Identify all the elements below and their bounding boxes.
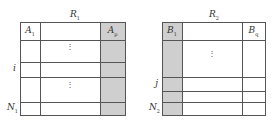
left-ellipsis-top: ⋮ [65, 45, 75, 48]
left-grid-line [125, 22, 126, 115]
left-grid-line [20, 102, 125, 103]
right-grid-line [162, 22, 265, 23]
left-last-column-header: Ap [100, 25, 125, 37]
right-row-label-n2: N2 [140, 102, 160, 114]
left-grid-line [40, 22, 41, 115]
right-grid-line [162, 40, 265, 41]
left-grid-line [20, 115, 126, 116]
right-ellipsis: ⋮ [207, 52, 217, 55]
right-row-label-j: j [142, 78, 158, 88]
left-grid-line [20, 77, 125, 78]
left-grid-line [20, 62, 125, 63]
right-grid-line [162, 91, 265, 92]
right-grid-line [162, 102, 265, 103]
left-grid-line [20, 40, 125, 41]
right-grid-line [182, 22, 183, 115]
right-last-column-header: Bq [242, 25, 265, 37]
left-first-column-header: A1 [20, 25, 40, 37]
right-grid-line [162, 115, 266, 116]
left-table-title: R1 [55, 9, 95, 21]
right-table-title: R2 [194, 9, 234, 21]
left-ellipsis-bottom: ⋮ [65, 83, 75, 86]
right-grid-line [162, 77, 265, 78]
left-grid-line [20, 22, 125, 23]
right-grid-line [265, 22, 266, 115]
left-row-label-i: i [2, 63, 16, 73]
right-first-column-header: B1 [162, 25, 182, 37]
left-row-label-n1: N1 [0, 102, 18, 114]
